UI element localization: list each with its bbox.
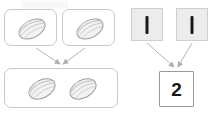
tally-mark-icon — [191, 16, 194, 34]
arrow-pod-a-to-sum — [36, 48, 60, 64]
tally-source-box-b[interactable] — [176, 8, 208, 41]
cocoa-pod-icon — [16, 17, 48, 45]
diagram-canvas: 2 — [0, 0, 211, 116]
pod-source-box-b[interactable] — [62, 9, 115, 46]
tally-mark-icon — [146, 16, 149, 34]
number-result-box[interactable]: 2 — [159, 71, 194, 107]
pod-source-box-a[interactable] — [4, 9, 57, 46]
number-result-label: 2 — [160, 72, 193, 106]
tally-source-box-a[interactable] — [131, 8, 163, 41]
background-smudge — [22, 0, 68, 9]
arrow-tally-a-to-sum — [147, 43, 174, 67]
cocoa-pod-icon — [67, 76, 99, 106]
cocoa-pod-icon — [26, 76, 58, 106]
pod-result-box[interactable] — [4, 68, 118, 108]
cocoa-pod-icon — [74, 17, 106, 45]
arrow-pod-b-to-sum — [63, 48, 85, 64]
arrow-tally-b-to-sum — [178, 43, 192, 67]
